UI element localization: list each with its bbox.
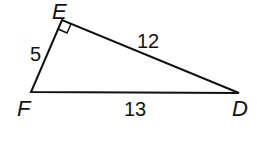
side-length-FD: 13 (124, 98, 146, 120)
triangle-diagram: E F D 5 12 13 (0, 0, 257, 144)
side-length-EF: 5 (30, 43, 41, 65)
vertex-label-E: E (52, 0, 67, 24)
vertex-label-F: F (17, 96, 32, 121)
vertex-label-D: D (232, 96, 248, 121)
side-length-ED: 12 (137, 30, 159, 52)
